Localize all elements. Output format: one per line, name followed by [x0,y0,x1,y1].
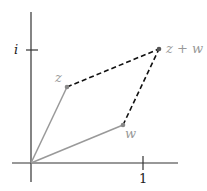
dashed-w-to-sum [123,49,159,125]
point-z-plus-w [157,47,162,52]
label-z: z [54,70,62,85]
tick-label-i: i [14,42,18,57]
dashed-z-to-sum [67,49,159,87]
vector-w [31,125,123,163]
label-z-plus-w: z + w [165,41,203,56]
tick-label-1: 1 [139,171,147,186]
complex-plane-diagram: z w z + w i 1 [0,0,207,191]
label-w: w [125,126,136,141]
vector-z [31,87,67,163]
point-z [65,85,70,90]
